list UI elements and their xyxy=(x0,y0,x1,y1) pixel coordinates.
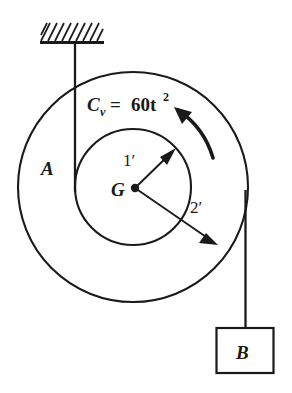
couple-exponent: 2 xyxy=(163,90,169,104)
couple-symbol: C xyxy=(87,94,100,115)
figure-canvas: A G 1′ 2′ B C v = 60t 2 xyxy=(0,0,292,393)
pulley-label-A: A xyxy=(40,158,54,179)
inner-radius-dimension xyxy=(135,148,176,188)
couple-equals: = xyxy=(110,94,121,115)
couple-formula: C v = 60t 2 xyxy=(87,90,169,119)
outer-radius-dimension xyxy=(135,188,218,245)
center-of-mass-dot xyxy=(131,184,139,192)
mechanics-figure: A G 1′ 2′ B C v = 60t 2 xyxy=(0,0,292,393)
block-label-B: B xyxy=(235,342,249,363)
couple-subscript: v xyxy=(100,105,106,119)
couple-arrowhead-icon xyxy=(174,107,192,124)
couple-magnitude: 60t xyxy=(131,94,157,115)
center-label-G: G xyxy=(111,179,125,200)
couple-moment-arrow xyxy=(174,107,213,158)
inner-radius-label: 1′ xyxy=(123,151,135,170)
outer-radius-label: 2′ xyxy=(190,198,202,217)
hatch-icon xyxy=(41,23,103,41)
fixed-ceiling-support xyxy=(40,23,104,43)
